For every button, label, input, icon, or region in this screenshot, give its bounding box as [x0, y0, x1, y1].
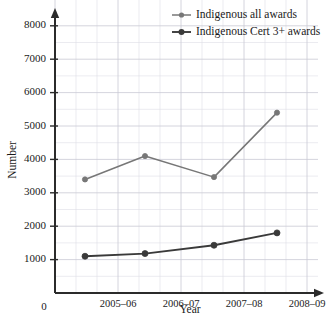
data-point-marker[interactable]: [211, 175, 216, 180]
y-axis-tick-label: 4000: [24, 152, 47, 164]
legend-label: Indigenous Cert 3+ awards: [196, 25, 321, 38]
data-point-marker[interactable]: [274, 110, 279, 115]
data-point-marker[interactable]: [82, 177, 87, 182]
legend-marker-icon: [179, 29, 185, 35]
y-axis-tick-label: 8000: [24, 18, 47, 30]
chart-container: 010002000300040005000600070008000 2005–0…: [0, 0, 330, 318]
y-axis-tick-label: 5000: [24, 119, 47, 131]
y-axis-tick-label: 2000: [24, 219, 47, 231]
y-axis-tick-label: 6000: [24, 85, 47, 97]
y-axis-title: Number: [6, 141, 18, 179]
origin-label: 0: [41, 300, 47, 312]
data-point-marker[interactable]: [142, 251, 148, 257]
data-point-marker[interactable]: [274, 230, 280, 236]
y-axis-tick-label: 1000: [24, 252, 47, 264]
legend-label: Indigenous all awards: [196, 8, 297, 21]
legend-marker-icon: [179, 12, 184, 17]
data-point-marker[interactable]: [82, 253, 88, 259]
line-chart: 010002000300040005000600070008000 2005–0…: [0, 0, 330, 318]
x-axis-title: Year: [179, 303, 200, 315]
x-axis-tick-label: 2008–09: [289, 298, 326, 309]
data-point-marker[interactable]: [142, 153, 147, 158]
y-axis-tick-label: 3000: [24, 185, 47, 197]
x-axis-tick-label: 2005–06: [100, 298, 137, 309]
y-axis-tick-label: 7000: [24, 52, 47, 64]
x-axis-tick-label: 2007–08: [226, 298, 263, 309]
data-point-marker[interactable]: [211, 242, 217, 248]
